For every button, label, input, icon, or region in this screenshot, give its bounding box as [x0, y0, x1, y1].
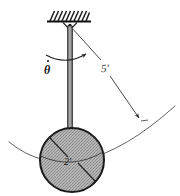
theta-dot-accent-icon	[47, 60, 49, 62]
radius-dimension-group	[71, 27, 148, 121]
angular-velocity-arrow-group	[46, 54, 86, 60]
radius-dimension-line-lower	[110, 76, 139, 118]
radius-dimension-tail	[141, 120, 148, 121]
spherical-bob-group	[40, 128, 104, 192]
angular-velocity-label: θ	[44, 64, 50, 76]
pendulum-rod	[67, 26, 72, 136]
radius-dimension-line-upper	[71, 27, 101, 60]
ceiling-hatching	[50, 11, 90, 21]
rod-length-label: 5'	[101, 63, 109, 74]
pendulum-diagram-canvas	[0, 0, 180, 196]
sphere-diameter-label: 2'	[64, 157, 71, 167]
rotation-arc-arrow	[46, 54, 86, 60]
theta-symbol: θ	[44, 63, 50, 77]
pendulum-figure: 5' 2' θ	[0, 0, 180, 196]
pendulum-rod-group	[67, 26, 72, 136]
